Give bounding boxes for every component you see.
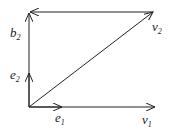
- label-v1: v1: [142, 113, 152, 129]
- label-v2: v2: [152, 20, 162, 36]
- label-e1: e1: [55, 111, 65, 127]
- label-b2: b2: [10, 26, 21, 42]
- label-e2: e2: [10, 68, 20, 84]
- v2-arrow: [29, 12, 153, 107]
